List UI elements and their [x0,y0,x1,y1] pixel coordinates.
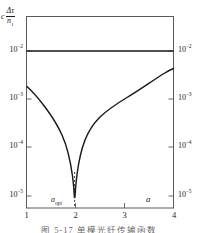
aopt-annotation-label: aopt [51,196,62,204]
y-axis-ticks-left [27,51,32,196]
y-axis-label-numerator: Δτ [6,7,16,15]
x-tick-label-4: 4 [167,211,181,220]
y-tick-label-right-1e-4: 10−4 [178,142,191,150]
figure-container: c Δτ n1 [0,0,198,233]
y-axis-label-lead: c [1,13,5,21]
y-tick-label-left-1e-5: 10−5 [2,191,23,199]
figure-caption: 图 5-17 单模光纤传输函数 [0,225,198,233]
x-tick-label-3: 3 [118,211,132,220]
y-axis-ticks-right [169,51,174,196]
x-tick-label-1: 1 [20,211,34,220]
y-tick-label-left-1e-4: 10−4 [2,142,23,150]
x-axis-label: a [146,195,151,204]
dispersion-curve [27,69,174,198]
plot-canvas [0,0,198,233]
y-tick-label-right-1e-5: 10−5 [178,191,191,199]
y-tick-label-right-1e-2: 10−2 [178,46,191,54]
y-tick-label-left-1e-2: 10−2 [2,46,23,54]
aopt-annotation-sub: opt [55,200,62,206]
y-axis-label: c Δτ n1 [1,7,15,27]
x-tick-label-2: 2 [69,211,83,220]
y-axis-label-fraction: Δτ n1 [6,7,16,27]
y-axis-label-denominator: n1 [6,17,15,27]
y-tick-label-left-1e-3: 10−3 [2,94,23,102]
x-axis-ticks [76,203,125,208]
y-axis-label-denominator-sub: 1 [11,22,14,27]
y-tick-label-right-1e-3: 10−3 [178,94,191,102]
